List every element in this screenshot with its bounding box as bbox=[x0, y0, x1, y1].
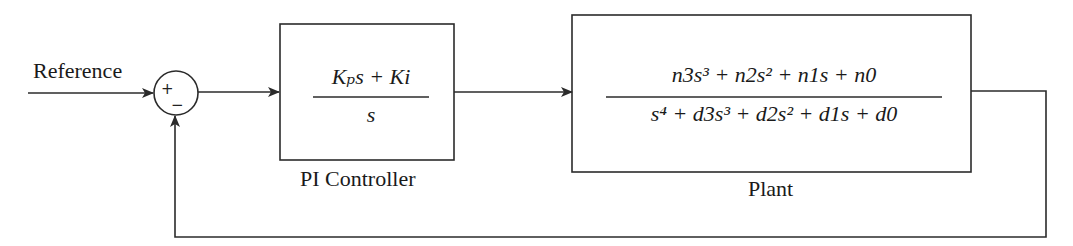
block-diagram: Reference + − Kₚs + Ki s PI Controller n… bbox=[0, 0, 1073, 246]
pi-numerator: Kₚs + Ki bbox=[300, 66, 442, 88]
plant-numerator: n3s³ + n2s² + n1s + n0 bbox=[600, 64, 948, 86]
plant-denominator: s⁴ + d3s³ + d2s² + d1s + d0 bbox=[600, 103, 948, 125]
pi-denominator: s bbox=[300, 104, 442, 126]
plant-block bbox=[572, 15, 971, 172]
pi-controller-block bbox=[280, 24, 454, 160]
pi-controller-caption: PI Controller bbox=[300, 168, 416, 190]
reference-label: Reference bbox=[33, 60, 122, 82]
plus-sign: + bbox=[161, 82, 174, 97]
plant-caption: Plant bbox=[748, 178, 793, 200]
minus-sign: − bbox=[171, 98, 184, 113]
